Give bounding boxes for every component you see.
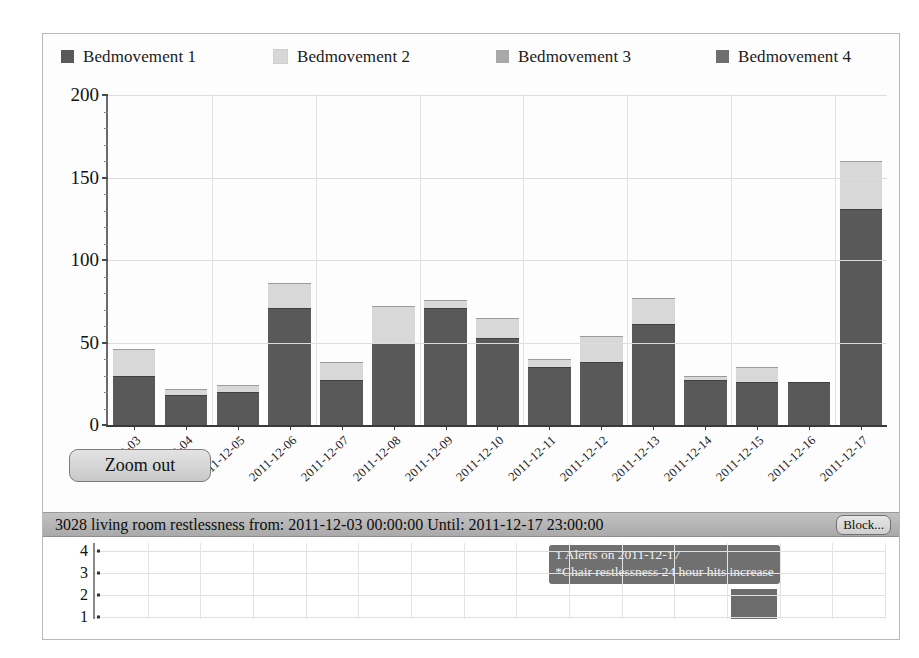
legend-swatch-icon: [273, 49, 288, 64]
bar-segment[interactable]: [580, 362, 623, 425]
x-tick-label: 2011-12-09: [402, 433, 456, 485]
alert-tooltip-line1: 1 Alerts on 2011-12-17: [555, 547, 774, 564]
stacked-bar[interactable]: [113, 349, 156, 425]
stacked-bar[interactable]: [580, 336, 623, 425]
bar-segment[interactable]: [424, 300, 467, 308]
y-gridline: [108, 343, 887, 344]
alerts-vgridline: [516, 543, 517, 619]
legend-swatch-icon: [496, 50, 509, 63]
bar-segment[interactable]: [476, 338, 519, 425]
x-gridline: [212, 95, 213, 425]
bar-segment[interactable]: [372, 343, 415, 426]
bar-segment[interactable]: [528, 367, 571, 425]
bar-segment[interactable]: [528, 359, 571, 367]
y-minor-tick: [104, 145, 108, 146]
stacked-bar[interactable]: [632, 298, 675, 425]
bar-segment[interactable]: [268, 308, 311, 425]
bar-segment[interactable]: [372, 306, 415, 342]
bar-segment[interactable]: [113, 349, 156, 375]
x-tick-mark: [394, 425, 395, 430]
bar-segment[interactable]: [632, 324, 675, 425]
alerts-panel: 1 Alerts on 2011-12-17 *Chair restlessne…: [43, 537, 899, 639]
stacked-bar[interactable]: [424, 300, 467, 425]
alerts-vgridline: [200, 543, 201, 619]
stacked-bar[interactable]: [476, 318, 519, 425]
legend-label: Bedmovement 4: [738, 47, 851, 67]
y-minor-tick: [104, 194, 108, 195]
alerts-vgridline: [569, 543, 570, 619]
stacked-bar[interactable]: [372, 306, 415, 425]
plot-canvas: 2011-12-032011-12-042011-12-052011-12-06…: [106, 95, 887, 427]
legend-swatch-icon: [716, 50, 729, 63]
alerts-gridline: [95, 573, 885, 574]
legend-label: Bedmovement 3: [518, 47, 631, 67]
bar-segment[interactable]: [684, 380, 727, 425]
stacked-bar[interactable]: [788, 382, 831, 425]
bar-segment[interactable]: [840, 209, 883, 425]
y-minor-tick: [104, 277, 108, 278]
y-tick-mark: [102, 424, 108, 426]
stacked-bar[interactable]: [217, 385, 260, 425]
x-tick-mark: [809, 425, 810, 430]
legend-item-4[interactable]: Bedmovement 4: [716, 47, 851, 67]
legend-item-3[interactable]: Bedmovement 3: [496, 47, 631, 67]
zoom-out-button[interactable]: Zoom out: [69, 449, 211, 482]
bar-segment[interactable]: [788, 382, 831, 425]
y-tick-mark: [102, 342, 108, 344]
alerts-vgridline: [148, 543, 149, 619]
stacked-bar[interactable]: [528, 359, 571, 425]
alerts-vgridline: [358, 543, 359, 619]
legend-item-2[interactable]: Bedmovement 2: [273, 47, 410, 67]
stacked-bar[interactable]: [684, 376, 727, 425]
bar-segment[interactable]: [840, 161, 883, 209]
bar-segment[interactable]: [632, 298, 675, 324]
status-bar: 3028 living room restlessness from: 2011…: [43, 512, 899, 537]
block-button[interactable]: Block...: [836, 515, 891, 535]
stacked-bar[interactable]: [840, 161, 883, 425]
alert-block-bar[interactable]: [731, 589, 777, 619]
alerts-y-label: 1: [80, 608, 88, 626]
y-minor-tick: [104, 161, 108, 162]
bar-segment[interactable]: [217, 392, 260, 425]
bar-segment[interactable]: [268, 283, 311, 308]
y-minor-tick: [104, 293, 108, 294]
main-chart-area: 2011-12-032011-12-042011-12-052011-12-06…: [43, 79, 899, 509]
y-minor-tick: [104, 211, 108, 212]
y-minor-tick: [104, 128, 108, 129]
bar-segment[interactable]: [736, 367, 779, 382]
legend-item-1[interactable]: Bedmovement 1: [61, 47, 196, 67]
y-tick-label: 50: [80, 332, 99, 354]
y-tick-mark: [102, 94, 108, 96]
x-tick-mark: [861, 425, 862, 430]
y-gridline: [108, 95, 887, 96]
x-gridline: [523, 95, 524, 425]
alerts-y-label: 3: [80, 564, 88, 582]
y-gridline: [108, 260, 887, 261]
bar-segment[interactable]: [113, 376, 156, 426]
bar-segment[interactable]: [165, 389, 208, 396]
stacked-bar[interactable]: [268, 283, 311, 425]
x-tick-mark: [134, 425, 135, 430]
x-gridline: [420, 95, 421, 425]
bar-segment[interactable]: [736, 382, 779, 425]
bar-segment[interactable]: [476, 318, 519, 338]
alerts-vgridline: [674, 543, 675, 619]
stacked-bar[interactable]: [165, 389, 208, 425]
bar-segment[interactable]: [217, 385, 260, 392]
x-tick-label: 2011-12-16: [765, 433, 819, 485]
x-tick-mark: [653, 425, 654, 430]
bar-segment[interactable]: [320, 362, 363, 380]
bar-segment[interactable]: [424, 308, 467, 425]
alerts-gridline: [95, 551, 885, 552]
bar-segment[interactable]: [320, 380, 363, 425]
x-tick-mark: [497, 425, 498, 430]
stacked-bar[interactable]: [320, 362, 363, 425]
x-tick-mark: [601, 425, 602, 430]
bar-segment[interactable]: [580, 336, 623, 362]
x-tick-mark: [705, 425, 706, 430]
status-bar-text: 3028 living room restlessness from: 2011…: [55, 516, 836, 534]
stacked-bar[interactable]: [736, 367, 779, 425]
x-tick-label: 2011-12-17: [817, 433, 871, 485]
bar-segment[interactable]: [165, 395, 208, 425]
chart-panel: Bedmovement 1Bedmovement 2Bedmovement 3B…: [42, 33, 900, 640]
